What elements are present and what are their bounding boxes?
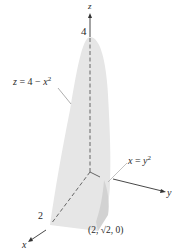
y-axis-visible xyxy=(113,179,162,191)
corner-point-label: (2, √2, 0) xyxy=(88,226,123,236)
y-axis-arrowhead xyxy=(160,189,166,193)
x-axis-label: x xyxy=(22,240,26,249)
side-surface-exp: 2 xyxy=(148,154,152,162)
x-tick-2-label: 2 xyxy=(38,211,43,221)
top-surface-equation: z = 4 − x2 xyxy=(13,76,51,87)
leader-top-surface xyxy=(58,88,71,104)
side-surface-eq: = xyxy=(132,155,143,166)
z-axis-arrowhead xyxy=(88,13,92,18)
z-tick-4-label: 4 xyxy=(81,26,87,37)
top-surface-eq: = 4 − xyxy=(17,76,43,87)
region-diagram xyxy=(0,0,189,249)
leader-side-surface xyxy=(108,163,127,182)
y-axis-label: y xyxy=(167,188,171,198)
z-axis-label: z xyxy=(88,2,92,11)
x-axis-visible xyxy=(31,230,46,240)
top-surface-exp: 2 xyxy=(48,75,52,83)
side-surface-equation: x = y2 xyxy=(128,155,151,166)
x-axis-arrowhead xyxy=(28,237,33,242)
